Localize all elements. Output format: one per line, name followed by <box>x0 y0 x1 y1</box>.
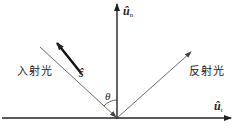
incident-direction-label: ŝ <box>79 67 84 79</box>
tangent-vector-label: ût <box>214 100 223 114</box>
incident-light-label: 入射光 <box>17 66 53 77</box>
theta-label: θ <box>105 91 110 102</box>
reflected-ray <box>117 52 191 118</box>
tangent-vector-symbol: û <box>214 99 221 113</box>
normal-vector-label: ûn <box>123 5 133 19</box>
tangent-vector-subscript: t <box>221 106 223 114</box>
reflected-light-label: 反射光 <box>189 66 225 77</box>
normal-vector-symbol: û <box>123 4 130 18</box>
s-vector-arrow <box>57 43 81 73</box>
normal-vector-subscript: n <box>130 11 134 19</box>
incident-ray <box>40 47 116 117</box>
reflection-diagram: ûn ŝ 入射光 反射光 θ ût <box>0 0 234 131</box>
